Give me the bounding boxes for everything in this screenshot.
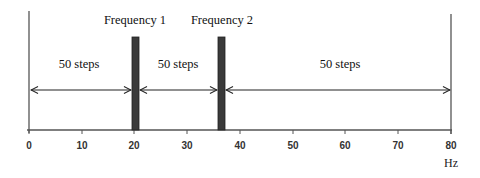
interval-3-label: 50 steps — [320, 57, 361, 71]
tick-label: 10 — [76, 140, 88, 151]
frequency-2-bar — [218, 37, 225, 130]
tick-label: 20 — [128, 140, 140, 151]
tick-label: 70 — [392, 140, 404, 151]
x-tick-labels: 0 10 20 30 40 50 60 70 80 — [26, 140, 457, 151]
frequency-step-diagram: 0 10 20 30 40 50 60 70 80 Hz Frequency 1… — [0, 0, 480, 178]
interval-2-label: 50 steps — [158, 57, 199, 71]
tick-label: 60 — [339, 140, 351, 151]
tick-label: 40 — [234, 140, 246, 151]
frequency-1-label: Frequency 1 — [104, 13, 166, 27]
interval-1-label: 50 steps — [59, 57, 100, 71]
tick-label: 50 — [287, 140, 299, 151]
tick-label: 30 — [181, 140, 193, 151]
frequency-1-bar — [132, 37, 139, 130]
tick-label: 0 — [26, 140, 32, 151]
x-axis-unit-label: Hz — [444, 156, 458, 170]
frequency-2-label: Frequency 2 — [191, 13, 253, 27]
tick-label: 80 — [445, 140, 457, 151]
